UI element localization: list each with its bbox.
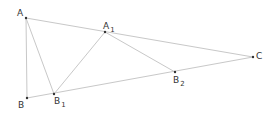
label-b2: B2 xyxy=(173,75,185,88)
point-b1 xyxy=(53,93,55,95)
point-a1 xyxy=(104,31,106,33)
diagram-svg: ABB1A1B2C xyxy=(0,0,273,115)
geometry-diagram: ABB1A1B2C xyxy=(0,0,273,115)
segments-group xyxy=(26,18,253,98)
segment-a-b xyxy=(26,18,27,98)
segment-b-c xyxy=(27,57,253,98)
point-c xyxy=(252,56,254,58)
segment-a-b1 xyxy=(26,18,54,94)
label-b: B xyxy=(18,100,24,110)
label-a: A xyxy=(17,8,24,18)
point-a xyxy=(25,17,27,19)
label-b1: B1 xyxy=(54,96,66,109)
points-group xyxy=(25,17,254,99)
segment-b1-a1 xyxy=(54,32,105,94)
point-b xyxy=(26,97,28,99)
point-b2 xyxy=(174,71,176,73)
label-c: C xyxy=(256,51,262,61)
